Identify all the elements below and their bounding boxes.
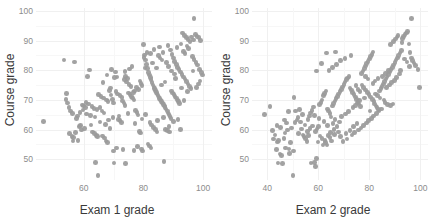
data-point (322, 119, 327, 124)
data-point (132, 148, 137, 153)
data-point (111, 101, 116, 106)
data-point (167, 130, 172, 135)
data-point (112, 161, 117, 166)
data-point (169, 69, 174, 74)
data-point (123, 103, 128, 108)
gridline-vertical (203, 8, 204, 180)
data-point (72, 60, 77, 65)
y-axis-tick-label: 100 (19, 6, 33, 16)
data-point (140, 149, 145, 154)
y-axis-tick-label: 70 (240, 95, 249, 105)
data-point (89, 123, 94, 128)
gridline-horizontal (252, 100, 428, 101)
data-point (275, 123, 280, 128)
gridline-horizontal-minor (252, 26, 428, 27)
data-point (73, 130, 78, 135)
data-point (384, 85, 389, 90)
data-point (289, 126, 294, 131)
data-point (400, 40, 405, 45)
data-point (279, 153, 284, 158)
data-point (155, 118, 160, 123)
gridline-horizontal-minor (36, 26, 212, 27)
data-point (171, 119, 176, 124)
data-point (274, 147, 279, 152)
data-point (76, 138, 81, 143)
data-point (161, 115, 166, 120)
data-point (84, 100, 89, 105)
data-point (96, 92, 101, 97)
y-axis-tick-label: 90 (240, 36, 249, 46)
data-point (123, 161, 128, 166)
data-point (163, 80, 168, 85)
y-axis-tick-label: 80 (240, 65, 249, 75)
data-point (114, 89, 119, 94)
panel-exam1: Course grade 50607080901006080100 Exam 1… (0, 0, 216, 219)
data-point (347, 74, 352, 79)
data-point (150, 61, 155, 66)
data-point (305, 139, 310, 144)
data-point (296, 131, 301, 136)
data-point (121, 147, 126, 152)
data-point (319, 61, 324, 66)
data-point (345, 137, 350, 142)
data-point (149, 146, 154, 151)
data-point (87, 68, 92, 73)
data-point (70, 111, 75, 116)
data-point (339, 114, 344, 119)
data-point (288, 140, 293, 145)
y-axis-tick-label: 60 (24, 125, 33, 135)
data-point (161, 50, 166, 55)
data-point (96, 173, 101, 178)
data-point (154, 66, 159, 71)
plot-area-exam2: 5060708090100406080100 (252, 8, 428, 180)
y-axis-tick-label: 70 (24, 95, 33, 105)
gridline-vertical (318, 8, 319, 180)
data-point (103, 122, 108, 127)
data-point (409, 16, 414, 21)
data-point (311, 105, 316, 110)
data-point (138, 131, 143, 136)
data-point (79, 128, 84, 133)
data-point (328, 135, 333, 140)
x-axis-label-right: Exam 2 grade (236, 203, 430, 217)
data-point (178, 127, 183, 132)
data-point (105, 140, 110, 145)
data-point (133, 121, 138, 126)
data-point (350, 133, 355, 138)
data-point (371, 81, 376, 86)
data-point (108, 126, 113, 131)
data-point (287, 151, 292, 156)
data-point (164, 60, 169, 65)
data-point (186, 46, 191, 51)
data-point (313, 164, 318, 169)
data-point (111, 115, 116, 120)
data-point (64, 91, 69, 96)
data-point (405, 29, 410, 34)
gridline-horizontal (252, 11, 428, 12)
data-point (407, 64, 412, 69)
data-point (335, 124, 340, 129)
gridline-horizontal-minor (36, 144, 212, 145)
data-point (291, 173, 296, 178)
x-axis-tick-label: 60 (79, 183, 88, 193)
y-axis-tick-label: 50 (240, 154, 249, 164)
data-point (407, 42, 412, 47)
x-axis-tick-label: 60 (314, 183, 323, 193)
gridline-vertical-minor (293, 8, 294, 180)
plot-area-exam1: 50607080901006080100 (36, 8, 212, 180)
x-axis-label-left: Exam 1 grade (20, 203, 214, 217)
gridline-vertical (420, 8, 421, 180)
data-point (115, 75, 120, 80)
data-point (156, 53, 161, 58)
data-point (141, 42, 146, 47)
y-axis-tick-label: 80 (24, 65, 33, 75)
data-point (173, 76, 178, 81)
x-axis-tick-label: 100 (196, 183, 210, 193)
gridline-horizontal-minor (252, 55, 428, 56)
data-point (356, 128, 361, 133)
data-point (200, 73, 205, 78)
data-point (41, 119, 46, 124)
data-point (306, 133, 311, 138)
data-point (297, 107, 302, 112)
data-point (162, 159, 167, 164)
